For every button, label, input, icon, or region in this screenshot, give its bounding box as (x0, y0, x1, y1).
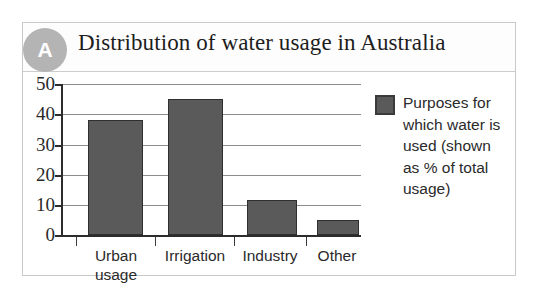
legend-label-line1: Purposes for (403, 92, 511, 114)
legend-swatch-icon (375, 95, 395, 115)
y-tick-mark-40 (55, 114, 62, 116)
x-axis-label-urban-usage-line1: Urban (71, 246, 161, 265)
bar-chart: 50 40 30 20 10 0 Urban usage Irrigation … (23, 72, 515, 275)
x-tick-mark-1 (155, 237, 156, 246)
y-tick-label-0: 0 (15, 224, 55, 246)
x-axis-label-other: Other (306, 246, 368, 265)
panel-badge-a: A (23, 28, 67, 72)
legend-label-line4: as % of total (403, 157, 511, 179)
y-tick-label-20: 20 (15, 164, 55, 186)
y-tick-mark-30 (55, 145, 62, 147)
x-axis-label-urban-usage-line2: usage (71, 265, 161, 284)
legend-label-line3: used (shown (403, 135, 511, 157)
x-axis-label-industry: Industry (231, 246, 309, 265)
legend-label-line5: usage) (403, 178, 511, 200)
y-tick-mark-10 (55, 205, 62, 207)
x-tick-mark-2 (234, 237, 235, 246)
bar-other (317, 220, 359, 235)
gridline-50 (61, 84, 361, 85)
figure-title-bar: Distribution of water usage in Australia (23, 23, 515, 72)
y-tick-label-30: 30 (15, 134, 55, 156)
y-tick-label-40: 40 (15, 103, 55, 125)
x-axis-label-urban-usage: Urban usage (71, 246, 161, 284)
bar-urban-usage (88, 120, 143, 235)
y-tick-mark-50 (55, 84, 62, 86)
page-title: Distribution of water usage in Australia (78, 30, 445, 56)
y-axis-line (61, 84, 63, 236)
bar-industry (247, 200, 297, 235)
y-tick-label-50: 50 (15, 73, 55, 95)
bar-irrigation (168, 99, 223, 235)
y-tick-mark-0 (55, 235, 62, 237)
plot-area: 50 40 30 20 10 0 Urban usage Irrigation … (61, 84, 361, 235)
x-tick-mark-0 (76, 237, 77, 246)
legend-label: Purposes for which water is used (shown … (403, 92, 511, 200)
x-tick-mark-3 (306, 237, 307, 246)
x-axis-line (61, 235, 361, 237)
x-axis-label-irrigation: Irrigation (154, 246, 236, 265)
legend-label-line2: which water is (403, 114, 511, 136)
y-tick-mark-20 (55, 175, 62, 177)
figure-card: Distribution of water usage in Australia… (22, 22, 516, 276)
y-tick-label-10: 10 (15, 194, 55, 216)
